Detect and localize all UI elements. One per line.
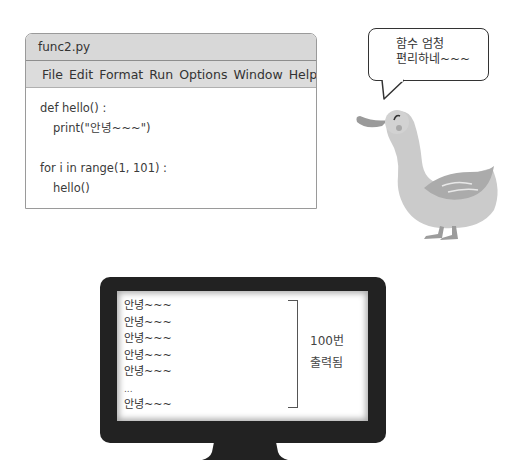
- menu-run[interactable]: Run: [149, 67, 173, 82]
- output-line: 안녕~~~: [124, 331, 172, 348]
- menu-format[interactable]: Format: [99, 67, 143, 82]
- console-output: 안녕~~~ 안녕~~~ 안녕~~~ 안녕~~~ 안녕~~~ ... 안녕~~~: [124, 298, 172, 414]
- speech-bubble-tail-icon: [378, 79, 418, 101]
- speech-bubble: 함수 엄청 편리하네~~~: [368, 28, 489, 81]
- output-line: 안녕~~~: [124, 364, 172, 381]
- code-line: [40, 138, 316, 158]
- bubble-line-1: 함수 엄청: [396, 37, 488, 52]
- output-line: 안녕~~~: [124, 315, 172, 332]
- editor-title-bar: func2.py: [26, 34, 316, 61]
- annotation-count: 100번: [310, 330, 344, 352]
- menu-window[interactable]: Window: [233, 67, 282, 82]
- code-line: for i in range(1, 101) :: [40, 158, 316, 178]
- duck-icon: [352, 100, 507, 240]
- editor-menu-bar: File Edit Format Run Options Window Help: [26, 61, 316, 88]
- code-line: def hello() :: [40, 98, 316, 118]
- code-line: hello(): [40, 178, 316, 198]
- menu-edit[interactable]: Edit: [69, 67, 93, 82]
- output-line: 안녕~~~: [124, 298, 172, 315]
- monitor-stand-icon: [200, 442, 290, 462]
- code-area[interactable]: def hello() : print("안녕~~~") for i in ra…: [26, 88, 316, 198]
- editor-filename: func2.py: [38, 40, 90, 54]
- output-annotation: 100번 출력됨: [310, 330, 344, 374]
- menu-help[interactable]: Help: [289, 67, 317, 82]
- bracket-icon: [288, 300, 298, 408]
- bubble-line-2: 편리하네~~~: [396, 52, 488, 67]
- annotation-text: 출력됨: [310, 352, 344, 374]
- editor-window: func2.py File Edit Format Run Options Wi…: [25, 33, 317, 209]
- menu-options[interactable]: Options: [179, 67, 227, 82]
- menu-file[interactable]: File: [42, 67, 63, 82]
- code-line: print("안녕~~~"): [40, 118, 316, 138]
- output-line: 안녕~~~: [124, 348, 172, 365]
- output-line: 안녕~~~: [124, 397, 172, 414]
- output-ellipsis: ...: [124, 381, 172, 398]
